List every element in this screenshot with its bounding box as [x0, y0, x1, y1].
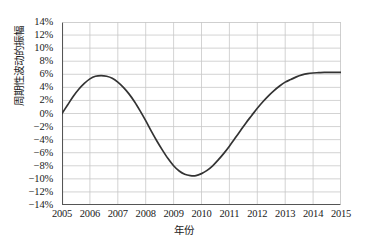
y-tick-label: −12%	[29, 187, 53, 198]
x-tick-label: 2008	[136, 208, 156, 219]
x-tick-label: 2015	[331, 208, 351, 219]
y-tick-label: −8%	[34, 161, 53, 172]
y-tick-label: 4%	[39, 82, 53, 93]
y-tick-label: −6%	[34, 147, 53, 158]
y-tick-label: 8%	[39, 56, 53, 67]
x-tick-label: 2011	[219, 208, 239, 219]
x-tick-label: 2009	[163, 208, 183, 219]
x-tick-label: 2012	[247, 208, 267, 219]
y-tick-label: −14%	[29, 200, 53, 211]
x-tick-label: 2010	[191, 208, 211, 219]
x-tick-label: 2006	[80, 208, 100, 219]
y-tick-label: −4%	[34, 134, 53, 145]
y-tick-label: −10%	[29, 174, 53, 185]
plot-area	[62, 22, 341, 205]
y-tick-label: 10%	[34, 43, 53, 54]
y-tick-label: 0%	[39, 108, 53, 119]
x-axis-tick-labels: 2005200620072008200920102011201220132014…	[62, 208, 341, 223]
x-tick-label: 2005	[52, 208, 72, 219]
x-tick-label: 2013	[275, 208, 295, 219]
y-tick-label: 12%	[34, 30, 53, 41]
y-tick-label: 14%	[34, 17, 53, 28]
x-tick-label: 2007	[108, 208, 128, 219]
y-axis-title: 周期性波动的振幅	[14, 11, 25, 121]
series-line-amplitude	[62, 22, 341, 205]
y-tick-label: −2%	[34, 121, 53, 132]
chart-figure: 14%12%10%8%6%4%2%0%−2%−4%−6%−8%−10%−12%−…	[0, 0, 367, 247]
x-tick-label: 2014	[303, 208, 323, 219]
y-tick-label: 2%	[39, 95, 53, 106]
y-axis-tick-labels: 14%12%10%8%6%4%2%0%−2%−4%−6%−8%−10%−12%−…	[0, 22, 58, 205]
y-tick-label: 6%	[39, 69, 53, 80]
x-axis-title: 年份	[0, 225, 367, 236]
